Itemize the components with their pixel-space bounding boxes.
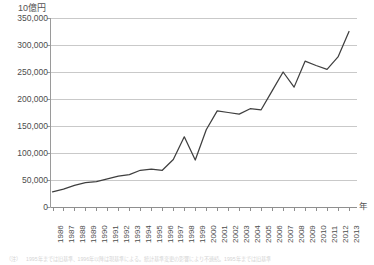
x-tick-label: 1997	[176, 225, 185, 243]
chart-figure: 10億円 050,000100,000150,000200,000250,000…	[0, 0, 374, 265]
x-tick-label: 2006	[275, 225, 284, 243]
x-tick-label: 2003	[242, 225, 251, 243]
x-tick-label: 2010	[319, 225, 328, 243]
x-tick-label: 1996	[166, 225, 175, 243]
x-tick-label: 1995	[155, 225, 164, 243]
x-tick-label: 2009	[308, 225, 317, 243]
x-tick-label: 1988	[78, 225, 87, 243]
x-tick-label: 2012	[341, 225, 350, 243]
x-tick-label: 1987	[67, 225, 76, 243]
x-tick-label: 2004	[253, 225, 262, 243]
x-tick-label: 1992	[122, 225, 131, 243]
y-tick-label: 250,000	[4, 67, 48, 77]
x-tick-label: 1991	[111, 225, 120, 243]
x-tick-label: 2008	[297, 225, 306, 243]
chart-footnote: （注）1995年までは旧基準、1996年以降は現基準による。統計基準変更の影響に…	[6, 256, 372, 263]
x-tick-label: 1998	[187, 225, 196, 243]
footnote-text: 1995年までは旧基準、1996年以降は現基準による。統計基準変更の影響により不…	[26, 256, 271, 262]
x-tick-label: 1986	[56, 225, 65, 243]
x-tick-label: 2001	[220, 225, 229, 243]
y-tick-label: 200,000	[4, 94, 48, 104]
y-tick-label: 350,000	[4, 13, 48, 23]
x-tick-label: 2005	[264, 225, 273, 243]
x-tick-label: 2013	[352, 225, 361, 243]
x-tick-label: 2007	[286, 225, 295, 243]
x-axis-unit-label: 年	[359, 199, 368, 211]
y-tick-label: 300,000	[4, 40, 48, 50]
y-tick-label: 150,000	[4, 121, 48, 131]
x-tick-label: 2002	[231, 225, 240, 243]
footnote-label: （注）	[6, 256, 21, 262]
y-tick-label: 100,000	[4, 148, 48, 158]
data-series-line	[53, 32, 350, 192]
gridlines-group	[51, 19, 358, 181]
x-tick-label: 1993	[133, 225, 142, 243]
x-tick-label: 1999	[198, 225, 207, 243]
x-tick-label: 1994	[144, 225, 153, 243]
x-tick-label: 1990	[100, 225, 109, 243]
x-tick-label: 1989	[89, 225, 98, 243]
y-tick-label: 0	[4, 202, 48, 212]
y-tick-label: 50,000	[4, 175, 48, 185]
x-tick-label: 2000	[209, 225, 218, 243]
x-tick-label: 2011	[330, 226, 339, 243]
